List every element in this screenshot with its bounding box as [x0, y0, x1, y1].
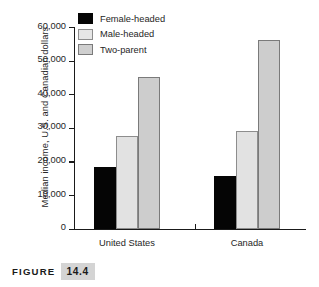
y-tick-label: 50,000 [38, 54, 66, 64]
x-axis-label-canada: Canada [197, 238, 297, 248]
legend-item: Female-headed [78, 11, 165, 27]
legend-label: Two-parent [100, 45, 147, 55]
bar-two-parent-canada [258, 40, 280, 228]
figure-caption: FIGURE 14.4 [12, 263, 95, 280]
figure-container: Median income, U.S. and Canadian dollars… [0, 0, 319, 287]
figure-caption-number: 14.4 [61, 263, 94, 280]
y-tick-label: 60,000 [38, 21, 66, 31]
x-axis-label-united-states: United States [77, 238, 177, 248]
y-tick: 60,000 [69, 27, 74, 28]
y-tick-label: 30,000 [38, 121, 66, 131]
legend-swatch-icon [78, 13, 93, 24]
figure-caption-word: FIGURE [12, 266, 55, 277]
bar-male-headed-canada [236, 131, 258, 228]
y-tick: 10,000 [69, 195, 74, 196]
x-axis-group-separator-tick [195, 224, 196, 229]
bar-male-headed-united-states [116, 136, 138, 229]
bar-female-headed-canada [214, 176, 236, 229]
legend-label: Male-headed [100, 29, 154, 39]
y-tick-label: 10,000 [38, 189, 66, 199]
y-tick-label: 20,000 [38, 155, 66, 165]
y-tick: 30,000 [69, 128, 74, 129]
legend-item: Male-headed [78, 27, 165, 43]
legend-item: Two-parent [78, 42, 165, 58]
y-tick: 0 [69, 229, 74, 230]
y-tick: 50,000 [69, 61, 74, 62]
x-axis-line [74, 229, 306, 230]
y-tick: 40,000 [69, 94, 74, 95]
legend-label: Female-headed [100, 14, 165, 24]
y-tick: 20,000 [69, 161, 74, 162]
chart-legend: Female-headedMale-headedTwo-parent [78, 11, 165, 58]
y-tick-label: 0 [61, 222, 66, 232]
bar-two-parent-united-states [138, 77, 160, 228]
legend-swatch-icon [78, 44, 93, 55]
y-tick-label: 40,000 [38, 88, 66, 98]
legend-swatch-icon [78, 29, 93, 40]
bar-female-headed-united-states [94, 167, 116, 229]
y-axis-line [74, 27, 75, 230]
